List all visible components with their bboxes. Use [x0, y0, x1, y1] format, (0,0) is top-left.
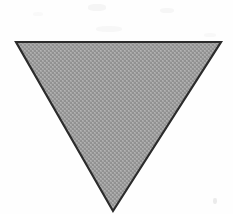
- triangle-figure-svg: [0, 0, 233, 214]
- inverted-triangle-shape: [16, 42, 221, 211]
- figure-canvas: A downward-pointing (inverted) equilater…: [0, 0, 233, 214]
